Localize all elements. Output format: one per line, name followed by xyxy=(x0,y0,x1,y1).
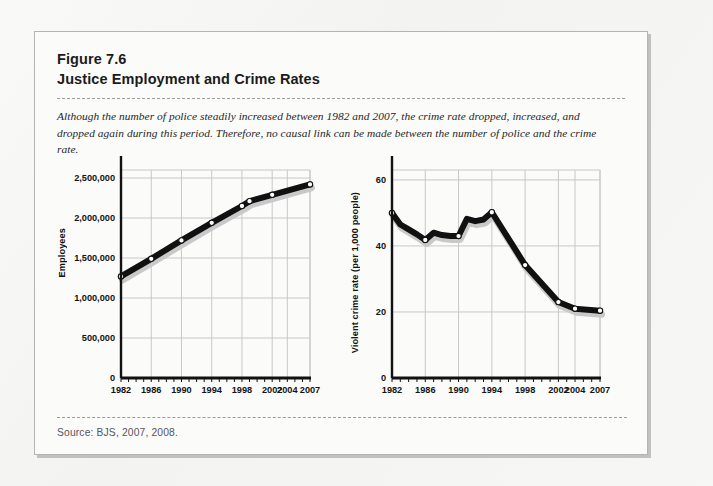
svg-text:1,500,000: 1,500,000 xyxy=(74,253,115,263)
svg-text:60: 60 xyxy=(376,175,386,185)
svg-text:2,500,000: 2,500,000 xyxy=(74,173,115,183)
chart-violent-crime-rate: Violent crime rate (per 1,000 people) 02… xyxy=(342,156,649,418)
svg-text:2004: 2004 xyxy=(277,385,298,395)
svg-text:0: 0 xyxy=(381,373,386,383)
source-section: Source: BJS, 2007, 2008. xyxy=(57,417,627,454)
svg-text:1,000,000: 1,000,000 xyxy=(74,293,115,303)
svg-text:1986: 1986 xyxy=(415,385,435,395)
source-note: Source: BJS, 2007, 2008. xyxy=(57,427,627,454)
charts-row: Employees 0500,0001,000,0001,500,0002,00… xyxy=(35,156,649,418)
chart-justice-employment: Employees 0500,0001,000,0001,500,0002,00… xyxy=(35,156,342,418)
svg-text:1990: 1990 xyxy=(448,385,468,395)
svg-text:1994: 1994 xyxy=(201,385,222,395)
line-chart-employment: 0500,0001,000,0001,500,0002,000,0002,500… xyxy=(35,156,342,418)
svg-text:2,000,000: 2,000,000 xyxy=(74,213,115,223)
svg-text:2004: 2004 xyxy=(565,385,586,395)
divider-top xyxy=(57,98,625,99)
svg-text:2007: 2007 xyxy=(300,385,320,395)
svg-text:1982: 1982 xyxy=(382,385,402,395)
svg-text:1994: 1994 xyxy=(482,385,503,395)
svg-text:20: 20 xyxy=(376,307,386,317)
svg-text:0: 0 xyxy=(110,373,115,383)
figure-box: Figure 7.6 Justice Employment and Crime … xyxy=(34,31,648,455)
figure-caption: Although the number of police steadily i… xyxy=(57,108,617,158)
svg-text:500,000: 500,000 xyxy=(82,333,115,343)
svg-text:2007: 2007 xyxy=(590,385,610,395)
svg-text:1998: 1998 xyxy=(232,385,252,395)
divider-bottom xyxy=(57,417,627,418)
figure-number: Figure 7.6 xyxy=(57,50,625,70)
figure-title: Justice Employment and Crime Rates xyxy=(57,70,625,90)
figure-inner: Figure 7.6 Justice Employment and Crime … xyxy=(35,32,647,454)
svg-text:40: 40 xyxy=(376,241,386,251)
svg-text:1998: 1998 xyxy=(515,385,535,395)
svg-text:1982: 1982 xyxy=(111,385,131,395)
line-chart-crime: 020406019821986199019941998200220042007 xyxy=(342,156,649,418)
svg-text:1986: 1986 xyxy=(141,385,161,395)
svg-text:1990: 1990 xyxy=(171,385,191,395)
